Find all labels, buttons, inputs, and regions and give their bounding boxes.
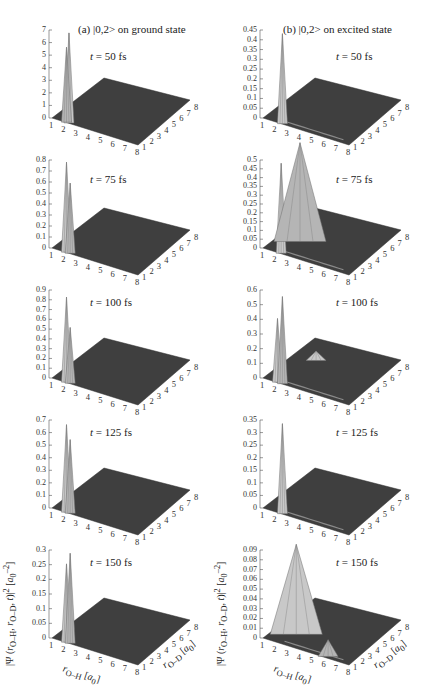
z-tick-label: 0.01	[227, 623, 257, 632]
z-tick-label: 0.1	[16, 363, 46, 372]
z-tick-label: 0	[227, 373, 257, 382]
surface-plot-a-100fs: 00.10.20.30.40.50.60.70.80.9123456781234…	[0, 268, 211, 398]
y-tick-label: 8	[194, 622, 198, 632]
z-tick-label: 0.15	[227, 217, 257, 226]
y-tick-label: 6	[390, 243, 394, 253]
z-tick-label: 0.15	[227, 465, 257, 474]
x-tick-label: 2	[272, 384, 276, 394]
z-tick-label: 0.1	[227, 93, 257, 102]
z-tick-label: 0.3	[16, 545, 46, 554]
x-tick-label: 2	[61, 254, 65, 264]
z-tick-label: 0.08	[227, 555, 257, 564]
x-tick-label: 1	[260, 120, 264, 130]
z-tick-label: 0.35	[227, 181, 257, 190]
x-tick-label: 2	[272, 514, 276, 524]
z-tick-label: 0.1	[227, 478, 257, 487]
z-tick-label: 0.5	[16, 440, 46, 449]
z-tick-label: 0.2	[16, 353, 46, 362]
x-tick-label: 1	[260, 640, 264, 650]
time-label: t = 75 fs	[90, 173, 126, 185]
z-tick-label: 0.25	[227, 440, 257, 449]
y-tick-label: 8	[405, 232, 409, 242]
z-tick-label: 7	[16, 25, 46, 34]
surface-plot-a-150fs: 00.050.10.150.20.250.31234567812345678t …	[0, 528, 211, 658]
z-tick-label: 0.5	[227, 300, 257, 309]
y-tick-label: 8	[194, 102, 198, 112]
y-tick-label: 4	[164, 385, 168, 395]
z-tick-label: 0.1	[227, 225, 257, 234]
z-tick-label: 0	[227, 243, 257, 252]
y-tick-label: 6	[390, 373, 394, 383]
x-tick-label: 4	[297, 652, 301, 662]
z-tick-label: 0.5	[16, 324, 46, 333]
x-tick-label: 3	[285, 518, 289, 528]
y-tick-label: 5	[383, 119, 387, 129]
z-tick-label: 3	[16, 75, 46, 84]
z-tick-label: 0	[16, 633, 46, 642]
y-tick-label: 5	[172, 249, 176, 259]
z-tick-label: 0	[227, 113, 257, 122]
surface-plot-a-50fs: 012345671234567812345678t = 50 fs(a) |0,…	[0, 8, 211, 138]
x-tick-label: 4	[86, 652, 90, 662]
z-tick-label: 0.05	[227, 234, 257, 243]
y-tick-label: 7	[398, 108, 402, 118]
y-tick-label: 5	[172, 509, 176, 519]
x-tick-label: 1	[260, 510, 264, 520]
x-tick-label: 2	[61, 384, 65, 394]
z-tick-label: 0.03	[227, 604, 257, 613]
y-tick-label: 5	[172, 379, 176, 389]
z-tick-label: 0.3	[16, 465, 46, 474]
z-tick-label: 0.05	[227, 490, 257, 499]
z-tick-label: 0.3	[16, 210, 46, 219]
surface-plot-b-100fs: 00.10.20.30.40.50.61234567812345678t = 1…	[211, 268, 422, 398]
z-tick-label: 0.06	[227, 574, 257, 583]
y-tick-label: 7	[398, 368, 402, 378]
surface-plot-b-50fs: 00.050.10.150.20.250.30.350.40.451234567…	[211, 8, 422, 138]
y-tick-label: 7	[398, 238, 402, 248]
z-tick-label: 0	[16, 113, 46, 122]
z-tick-label: 0.3	[227, 54, 257, 63]
z-tick-label: 0.4	[16, 334, 46, 343]
x-tick-label: 1	[49, 250, 53, 260]
y-tick-label: 4	[375, 385, 379, 395]
time-label: t = 125 fs	[336, 426, 378, 438]
x-tick-label: 3	[74, 648, 78, 658]
z-tick-label: 0.1	[227, 358, 257, 367]
y-tick-label: 7	[187, 238, 191, 248]
z-tick-label: 0.25	[227, 64, 257, 73]
y-tick-label: 7	[187, 108, 191, 118]
surface-plot-b-125fs: 00.050.10.150.20.250.30.3512345678123456…	[211, 398, 422, 528]
x-tick-label: 1	[49, 120, 53, 130]
surface-plot-b-150fs: 00.010.020.030.040.050.060.070.080.09123…	[211, 528, 422, 658]
z-tick-label: 0.2	[227, 208, 257, 217]
z-tick-label: 0.5	[16, 188, 46, 197]
z-tick-label: 0.9	[16, 285, 46, 294]
y-tick-label: 8	[405, 492, 409, 502]
y-tick-label: 5	[172, 119, 176, 129]
z-tick-label: 0.4	[16, 453, 46, 462]
z-tick-label: 0.4	[227, 314, 257, 323]
z-tick-label: 0.09	[227, 545, 257, 554]
z-tick-label: 0.07	[227, 565, 257, 574]
z-tick-label: 0.25	[16, 560, 46, 569]
z-tick-label: 4	[16, 63, 46, 72]
z-tick-label: 0.2	[227, 74, 257, 83]
z-tick-label: 0.05	[227, 103, 257, 112]
x-tick-label: 1	[49, 510, 53, 520]
z-tick-label: 0.3	[227, 190, 257, 199]
z-tick-label: 1	[16, 100, 46, 109]
x-tick-label: 3	[74, 258, 78, 268]
y-tick-label: 6	[179, 373, 183, 383]
z-tick-label: 6	[16, 38, 46, 47]
x-tick-label: 2	[61, 644, 65, 654]
z-tick-label: 5	[16, 50, 46, 59]
z-tick-label: 0.5	[227, 155, 257, 164]
x-tick-label: 3	[74, 518, 78, 528]
x-tick-label: 8	[346, 667, 350, 677]
time-label: t = 50 fs	[90, 50, 126, 62]
z-tick-label: 0.2	[16, 574, 46, 583]
z-tick-label: 0.2	[16, 478, 46, 487]
x-tick-label: 3	[285, 388, 289, 398]
z-tick-label: 0.25	[227, 199, 257, 208]
x-tick-label: 3	[285, 648, 289, 658]
